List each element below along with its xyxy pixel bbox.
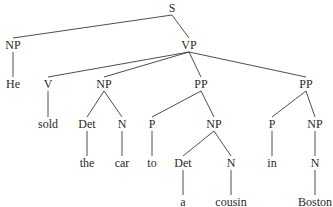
tree-edges	[0, 0, 333, 207]
node-det-a: Det	[174, 157, 191, 169]
node-p-in: P	[269, 118, 276, 130]
node-n-boston: N	[311, 157, 320, 169]
tree-edge	[214, 131, 231, 156]
node-det-the: Det	[78, 118, 95, 130]
word-cousin: cousin	[215, 196, 246, 207]
node-np-cousin: NP	[206, 118, 221, 130]
tree-edge	[48, 52, 189, 77]
word-boston: Boston	[298, 196, 332, 207]
node-n-car: N	[118, 118, 127, 130]
word-he: He	[6, 78, 20, 90]
node-n-cousin: N	[227, 157, 236, 169]
word-in: in	[267, 157, 276, 169]
node-pp-to: PP	[194, 78, 207, 90]
word-the: the	[80, 157, 95, 169]
tree-edge	[183, 131, 214, 156]
tree-edge	[152, 91, 201, 117]
tree-edge	[189, 52, 306, 77]
word-car: car	[115, 157, 130, 169]
tree-edge	[104, 91, 122, 117]
tree-edge	[172, 15, 189, 38]
tree-edge	[87, 91, 104, 117]
node-np-object: NP	[96, 78, 111, 90]
word-sold: sold	[38, 118, 58, 130]
node-vp: VP	[181, 39, 196, 51]
tree-edge	[306, 91, 315, 117]
node-v: V	[44, 78, 53, 90]
tree-edge	[272, 91, 306, 117]
node-s: S	[169, 2, 176, 14]
node-p-to: P	[149, 118, 156, 130]
tree-edge	[201, 91, 214, 117]
node-pp-in: PP	[299, 78, 312, 90]
word-to: to	[147, 157, 156, 169]
word-a: a	[180, 196, 185, 207]
tree-edge	[189, 52, 201, 77]
node-np-boston: NP	[307, 118, 322, 130]
parse-tree: S NP VP He V NP PP PP sold Det N P NP P …	[0, 0, 333, 207]
node-np-subject: NP	[5, 39, 20, 51]
tree-edge	[13, 15, 172, 38]
